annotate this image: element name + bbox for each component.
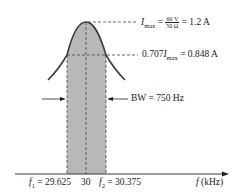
bandwidth-label: BW = 750 Hz bbox=[131, 94, 184, 104]
f2-label: f2 = 30.375 bbox=[99, 178, 141, 189]
x-axis-label: f (kHz) bbox=[196, 178, 223, 188]
f1-label: f1 = 29.625 bbox=[29, 178, 71, 189]
passband-shade bbox=[67, 22, 106, 174]
half-power-current-label: 0.707Imax = 0.848 A bbox=[142, 50, 218, 61]
center-frequency-label: 30 bbox=[81, 178, 91, 188]
resonance-curve-graphic bbox=[0, 0, 241, 194]
peak-current-label: Imax = 60 V 50 Ω = 1.2 A bbox=[141, 16, 210, 29]
voltage-over-resistance-fraction: 60 V 50 Ω bbox=[165, 16, 179, 29]
